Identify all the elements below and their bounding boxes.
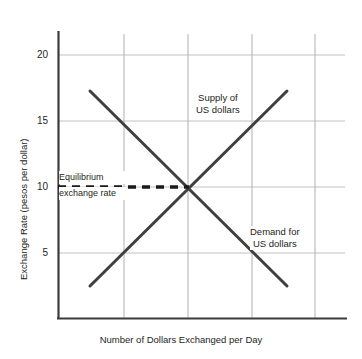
equilibrium-label-line2: exchange rate [59, 187, 127, 200]
equilibrium-annotation: Equilibrium exchange rate [59, 171, 127, 200]
supply-label-line1: Supply of [198, 92, 238, 103]
equilibrium-label-line1: Equilibrium [59, 171, 127, 184]
x-axis-title: Number of Dollars Exchanged per Day [0, 334, 362, 345]
vertical-gridlines [124, 34, 315, 318]
demand-curve-label: Demand for US dollars [250, 226, 300, 250]
chart-plot-area [0, 0, 362, 359]
y-tick-label-20: 20 [24, 49, 48, 60]
demand-label-line2: US dollars [253, 238, 297, 249]
exchange-rate-chart: 20 15 10 5 Exchange Rate (pesos per doll… [0, 0, 362, 359]
y-tick-label-15: 15 [24, 115, 48, 126]
supply-label-line2: US dollars [196, 104, 240, 115]
supply-curve-label: Supply of US dollars [196, 92, 240, 116]
horizontal-gridlines [58, 55, 345, 253]
demand-label-line1: Demand for [250, 226, 300, 237]
y-axis-title: Exchange Rate (pesos per dollar) [18, 138, 29, 280]
